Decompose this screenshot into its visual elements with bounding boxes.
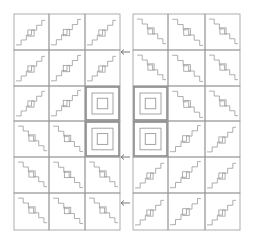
staircase-line xyxy=(135,200,164,225)
concentric-square-outer xyxy=(140,128,161,150)
quilt-diagram xyxy=(0,0,255,242)
staircase-line xyxy=(89,198,118,223)
staircase-line xyxy=(18,198,47,223)
staircase-line xyxy=(170,162,201,188)
staircase-line xyxy=(207,163,236,188)
staircase-line xyxy=(135,163,164,188)
staircase-line xyxy=(209,55,238,80)
staircase-line xyxy=(51,19,81,44)
grid-cell xyxy=(14,193,49,230)
staircase-line xyxy=(87,20,116,45)
staircase-line xyxy=(207,127,236,152)
concentric-square-inner xyxy=(97,98,108,109)
grid-cell xyxy=(85,121,120,157)
staircase-line xyxy=(170,126,201,152)
concentric-square-outer xyxy=(92,128,113,150)
grid-cell xyxy=(85,193,120,230)
staircase-line xyxy=(172,55,203,81)
quilt-pattern-svg xyxy=(0,0,255,242)
highlight-frame xyxy=(86,122,119,156)
concentric-square-inner xyxy=(145,134,156,145)
staircase-line xyxy=(87,56,116,81)
staircase-line xyxy=(209,91,238,116)
grid-cell xyxy=(133,86,168,121)
staircase-line xyxy=(172,19,203,45)
staircase-line xyxy=(53,126,83,151)
concentric-square-inner xyxy=(145,98,156,109)
staircase-line xyxy=(51,90,81,115)
staircase-line xyxy=(53,198,83,223)
concentric-square-outer xyxy=(92,93,113,114)
concentric-square-inner xyxy=(97,134,108,145)
staircase-line xyxy=(18,162,47,187)
staircase-line xyxy=(53,162,83,187)
grid-cell xyxy=(133,121,168,157)
staircase-line xyxy=(137,55,166,80)
grid-cell xyxy=(85,86,120,121)
highlight-frame xyxy=(134,122,167,156)
staircase-line xyxy=(207,200,236,225)
staircase-line xyxy=(16,56,45,81)
highlight-frame xyxy=(134,87,167,120)
staircase-line xyxy=(51,55,81,80)
staircase-line xyxy=(209,19,238,44)
staircase-line xyxy=(16,20,45,45)
concentric-square-outer xyxy=(140,93,161,114)
staircase-line xyxy=(172,91,203,117)
staircase-line xyxy=(16,91,45,116)
staircase-line xyxy=(170,199,201,225)
highlight-frame xyxy=(86,87,119,120)
staircase-line xyxy=(18,126,47,151)
staircase-line xyxy=(137,19,166,44)
staircase-line xyxy=(89,162,118,187)
